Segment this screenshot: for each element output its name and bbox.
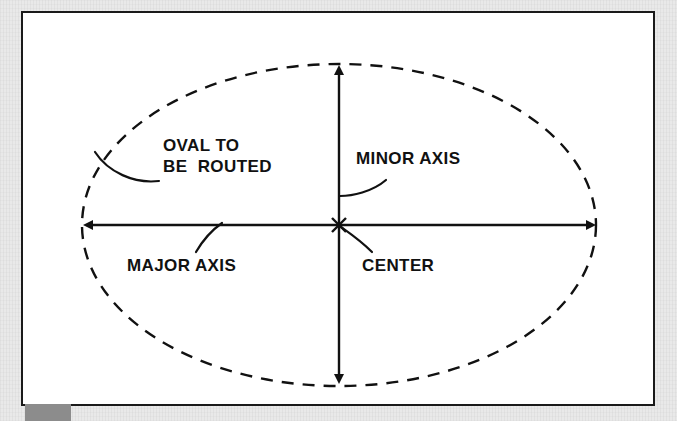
major-axis-label: MAJOR AXIS (127, 255, 236, 276)
diagram-canvas (0, 0, 677, 421)
center-label: CENTER (362, 255, 434, 276)
minor-leader-line (340, 180, 386, 196)
oval-label: OVAL TOBE ROUTED (163, 135, 272, 177)
minor-axis-label: MINOR AXIS (356, 148, 460, 169)
oval-label-line1: OVAL TO (163, 136, 239, 155)
page-corner-block (25, 404, 71, 421)
center-leader-line (341, 227, 372, 252)
major-leader-line (196, 223, 222, 252)
diagram-page: OVAL TOBE ROUTED MINOR AXIS MAJOR AXIS C… (0, 0, 677, 421)
oval-leader-line (95, 152, 159, 181)
oval-label-line2: BE ROUTED (163, 157, 272, 176)
